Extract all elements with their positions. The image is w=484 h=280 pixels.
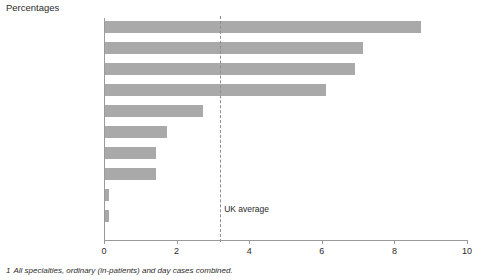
- category-label: Anglia and Oxford: [0, 105, 6, 116]
- x-tick-label: 4: [247, 246, 252, 256]
- category-label: North Thames: [0, 21, 6, 32]
- category-label: Northern and Yorkshire: [0, 168, 6, 179]
- category-label: West Midlands: [0, 189, 6, 200]
- bar: [105, 189, 109, 201]
- category-label: Scotland: [0, 147, 6, 158]
- footnote-text: All specialties, ordinary (in-patients) …: [13, 266, 232, 275]
- x-tick-mark: [177, 240, 178, 244]
- bar-row: North West: [104, 228, 467, 249]
- x-tick-label: 8: [392, 246, 397, 256]
- category-label: Northern Ireland: [0, 84, 6, 95]
- category-label: North West: [0, 231, 6, 242]
- bar: [105, 168, 156, 180]
- bar: [105, 210, 109, 222]
- bar-row: Wales: [104, 60, 467, 81]
- x-tick-mark: [394, 240, 395, 244]
- x-tick-label: 0: [101, 246, 106, 256]
- bar-row: South Thames: [104, 39, 467, 60]
- bar: [105, 63, 355, 75]
- bar: [105, 21, 421, 33]
- category-label: Wales: [0, 63, 6, 74]
- bar-row: Northern and Yorkshire: [104, 165, 467, 186]
- x-tick-label: 2: [174, 246, 179, 256]
- x-tick-mark: [322, 240, 323, 244]
- plot-area: North ThamesSouth ThamesWalesNorthern Ir…: [104, 18, 467, 240]
- uk-average-label: UK average: [220, 204, 269, 214]
- bar-row: South and West: [104, 207, 467, 228]
- category-label: South Thames: [0, 42, 6, 53]
- bar-row: Trent: [104, 123, 467, 144]
- chart-figure: Percentages North ThamesSouth ThamesWale…: [0, 0, 484, 280]
- x-tick-mark: [104, 240, 105, 244]
- category-label: South and West: [0, 210, 6, 221]
- x-axis-line: [104, 240, 467, 241]
- bar-row: Scotland: [104, 144, 467, 165]
- category-label: Trent: [0, 126, 6, 137]
- bar-row: North Thames: [104, 18, 467, 39]
- footnote: 1All specialties, ordinary (in-patients)…: [6, 266, 233, 275]
- bar-row: Anglia and Oxford: [104, 102, 467, 123]
- bar: [105, 105, 203, 117]
- bar: [105, 84, 326, 96]
- x-tick-mark: [249, 240, 250, 244]
- bar: [105, 42, 363, 54]
- x-tick-label: 10: [462, 246, 472, 256]
- bar: [105, 147, 156, 159]
- bar-row: Northern Ireland: [104, 81, 467, 102]
- bar-row: West Midlands: [104, 186, 467, 207]
- footnote-marker: 1: [6, 266, 10, 275]
- x-tick-mark: [467, 240, 468, 244]
- bar: [105, 126, 167, 138]
- chart-title: Percentages: [6, 2, 59, 13]
- x-tick-label: 6: [319, 246, 324, 256]
